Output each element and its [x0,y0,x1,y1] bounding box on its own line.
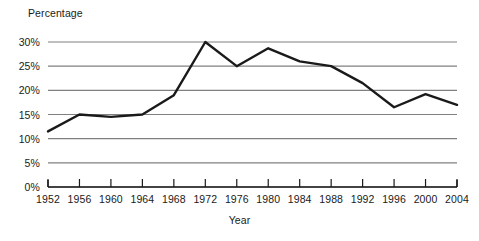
y-axis-tick-label: 15% [0,109,40,121]
data-series-line [48,42,457,131]
x-axis-title: Year [0,214,479,226]
y-axis-tick-label: 30% [0,36,40,48]
y-axis-tick-label: 25% [0,60,40,72]
y-axis-tick-label: 0% [0,181,40,193]
y-axis-tick-label: 10% [0,133,40,145]
line-chart: Percentage Year 0%5%10%15%20%25%30%19521… [0,0,479,241]
y-axis-tick-label: 5% [0,157,40,169]
y-axis-tick-label: 20% [0,84,40,96]
x-axis-tick-label: 2004 [437,193,477,205]
